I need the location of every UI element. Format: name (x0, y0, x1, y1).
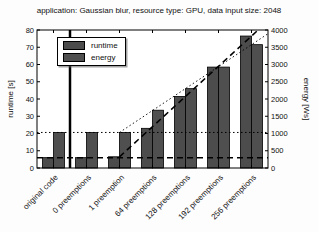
bar-energy (219, 67, 230, 168)
left-tick-label: 10 (26, 146, 34, 155)
bar-runtime (43, 158, 54, 168)
right-axis-label: energy [Ws] (302, 78, 311, 121)
right-tick-label: 4000 (271, 26, 288, 35)
left-tick-label: 60 (26, 60, 34, 69)
legend-swatch-runtime (63, 41, 85, 50)
left-tick-label: 20 (26, 129, 34, 138)
chart-figure: application: Gaussian blur, resource typ… (0, 0, 318, 232)
bar-runtime (241, 36, 252, 168)
bar-energy (186, 89, 197, 168)
bar-energy (87, 132, 98, 168)
bar-runtime (208, 67, 219, 168)
bar-energy (54, 132, 65, 168)
bar-energy (153, 110, 164, 168)
right-tick-label: 500 (271, 146, 284, 155)
left-tick-label: 70 (26, 43, 34, 52)
legend-swatch-energy (63, 53, 85, 62)
legend: runtime energy (57, 37, 126, 66)
bar-energy (252, 45, 263, 168)
legend-label-energy: energy (91, 54, 115, 62)
right-tick-label: 2500 (271, 77, 288, 86)
legend-label-runtime: runtime (91, 42, 118, 50)
plot-area: 0102030405060708005001000150020002500300… (0, 0, 318, 232)
left-tick-label: 80 (26, 26, 34, 35)
left-tick-label: 0 (30, 164, 34, 173)
legend-entry-runtime: runtime (63, 41, 118, 50)
left-tick-label: 30 (26, 112, 34, 121)
right-tick-label: 3500 (271, 43, 288, 52)
bar-runtime (76, 158, 87, 168)
left-tick-label: 40 (26, 95, 34, 104)
right-tick-label: 2000 (271, 95, 288, 104)
bar-energy (120, 132, 131, 168)
legend-entry-energy: energy (63, 53, 118, 62)
bar-runtime (109, 157, 120, 168)
right-tick-label: 1500 (271, 112, 288, 121)
left-axis-label: runtime [s] (6, 80, 15, 117)
right-tick-label: 3000 (271, 60, 288, 69)
right-tick-label: 0 (271, 164, 275, 173)
left-tick-label: 50 (26, 77, 34, 86)
right-tick-label: 1000 (271, 129, 288, 138)
